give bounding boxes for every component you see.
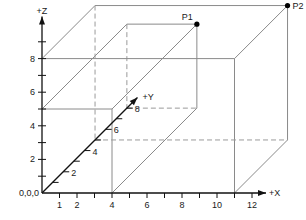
z-axis-label: +Z [37, 6, 48, 16]
box-edge [112, 24, 197, 109]
z-tick-label: 4 [30, 121, 35, 131]
x-tick-label: 6 [144, 200, 149, 210]
x-tick-label: 4 [109, 200, 114, 210]
boxes-layer [42, 6, 288, 193]
diagram-canvas: 0,0,0 +X +Y +Z 24681246810122468P1P2 [0, 0, 306, 220]
x-tick-label: 1 [57, 200, 62, 210]
box-edge [42, 6, 95, 59]
origin-label: 0,0,0 [19, 188, 39, 198]
y-axis-label: +Y [142, 92, 153, 102]
x-axis-label: +X [269, 188, 280, 198]
box-edge [112, 108, 197, 193]
x-tick-label: 2 [74, 200, 79, 210]
y-tick-label: 2 [71, 168, 76, 178]
coordinate-diagram: 0,0,0 +X +Y +Z 24681246810122468P1P2 [0, 0, 306, 220]
point-label-p1: P1 [182, 12, 193, 22]
point-marker-p1 [194, 22, 199, 27]
small-box [42, 24, 197, 193]
z-tick-label: 2 [30, 154, 35, 164]
x-tick-label: 10 [212, 200, 222, 210]
y-axis-line [42, 98, 137, 193]
x-tick-label: 8 [179, 200, 184, 210]
x-axis-arrow-icon [258, 190, 266, 196]
z-tick-label: 6 [30, 87, 35, 97]
x-tick-label: 12 [247, 200, 257, 210]
z-tick-label: 8 [30, 54, 35, 64]
y-tick-label: 8 [135, 104, 140, 114]
y-tick-label: 6 [114, 125, 119, 135]
box-edge [235, 6, 288, 59]
box-edge [42, 24, 127, 109]
z-axis-arrow-icon [39, 17, 45, 25]
box-edge [235, 140, 288, 193]
large-box [42, 6, 288, 193]
point-label-p2: P2 [293, 1, 304, 11]
y-tick-label: 4 [92, 147, 97, 157]
point-marker-p2 [285, 3, 290, 8]
points-layer [194, 3, 290, 27]
